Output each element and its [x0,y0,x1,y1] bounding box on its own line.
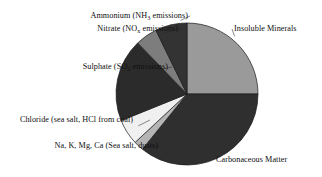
slice-label-insoluble-minerals: Insoluble Minerals [234,24,297,35]
slice-label-sulphate-text: Sulphate (SO2 emissions) [83,62,168,71]
slice-label-chloride: Chloride (sea salt, HCl from coal) [4,115,149,126]
slice-label-carbonaceous-matter: Carbonaceous Matter [216,155,287,166]
slice-label-nitrate-text: Nitrate (NOx emissions) [97,24,178,33]
slice-label-ammonium-text: Ammonium (NH3 emissions) [90,11,188,20]
slice-label-ammonium: Ammonium (NH3 emissions) [10,11,188,22]
slice-label-sea-salt-cations: Na, K, Mg, Ca (Sea salt, dusts) [4,141,158,152]
pie-chart-figure: Ammonium (NH3 emissions) Nitrate (NOx em… [0,0,322,177]
slice-label-sulphate: Sulphate (SO2 emissions) [6,62,168,73]
slice-label-nitrate: Nitrate (NOx emissions) [10,24,178,35]
